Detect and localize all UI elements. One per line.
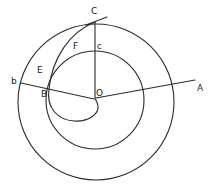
diagram-svg [0, 0, 212, 195]
label-e: E [37, 66, 43, 75]
label-c-upper: C [91, 7, 97, 16]
label-b-upper: B [41, 90, 47, 99]
label-b-lower: b [11, 77, 17, 86]
spiral-curve [49, 22, 99, 121]
diagram-canvas: C c F E b B O A [0, 0, 212, 195]
line-o-to-a [96, 80, 195, 98]
line-o-to-b [21, 83, 94, 99]
label-a: A [197, 84, 203, 93]
label-o: O [96, 89, 103, 98]
label-f: F [73, 42, 78, 51]
label-c-lower: c [97, 43, 101, 51]
outer-circle [18, 24, 174, 180]
